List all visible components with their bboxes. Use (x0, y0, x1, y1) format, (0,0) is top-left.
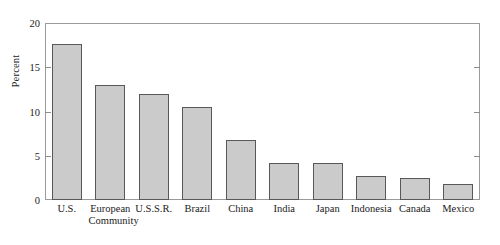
bar (443, 184, 473, 200)
x-axis-label-line: Canada (399, 203, 431, 214)
x-axis-labels: U.S.EuropeanCommunityU.S.S.R.BrazilChina… (45, 203, 480, 233)
y-tick-label: 20 (14, 23, 40, 24)
x-axis-label: China (219, 203, 263, 215)
x-axis-label: Indonesia (350, 203, 394, 215)
x-axis-label: Japan (306, 203, 350, 215)
bar (356, 176, 386, 200)
bar (226, 140, 256, 200)
x-axis-label-line: Indonesia (351, 203, 392, 214)
x-axis-label-line: U.S.S.R. (135, 203, 172, 214)
y-tick-label: 15 (14, 67, 40, 68)
x-axis-label-line: China (228, 203, 253, 214)
y-tick-label: 10 (14, 112, 40, 113)
x-axis-label: India (263, 203, 307, 215)
bar (182, 107, 212, 200)
x-axis-label: Canada (393, 203, 437, 215)
x-axis-label-line: India (273, 203, 295, 214)
x-axis-label: Brazil (176, 203, 220, 215)
y-tick-label: 0 (14, 200, 40, 201)
x-axis-label-line: Mexico (442, 203, 474, 214)
x-axis-label-line: European (90, 203, 130, 214)
x-axis-label-line: U.S. (57, 203, 76, 214)
bar-series (45, 23, 480, 200)
x-axis-label-line: Japan (316, 203, 340, 214)
x-axis-label: U.S. (45, 203, 89, 215)
x-axis-label-line: Community (89, 215, 133, 227)
bar (400, 178, 430, 200)
x-axis-label: EuropeanCommunity (89, 203, 133, 226)
bar (313, 163, 343, 200)
x-axis-label: U.S.S.R. (132, 203, 176, 215)
y-tick-label: 5 (14, 156, 40, 157)
bar (95, 85, 125, 200)
bar (269, 163, 299, 200)
bar-chart-figure: Percent 05101520 U.S.EuropeanCommunityU.… (0, 0, 500, 245)
x-axis-label: Mexico (437, 203, 481, 215)
figure-caption-cropped (0, 236, 500, 245)
y-axis-title: Percent (10, 36, 21, 106)
bar (139, 94, 169, 200)
x-axis-label-line: Brazil (184, 203, 210, 214)
bar (52, 44, 82, 200)
